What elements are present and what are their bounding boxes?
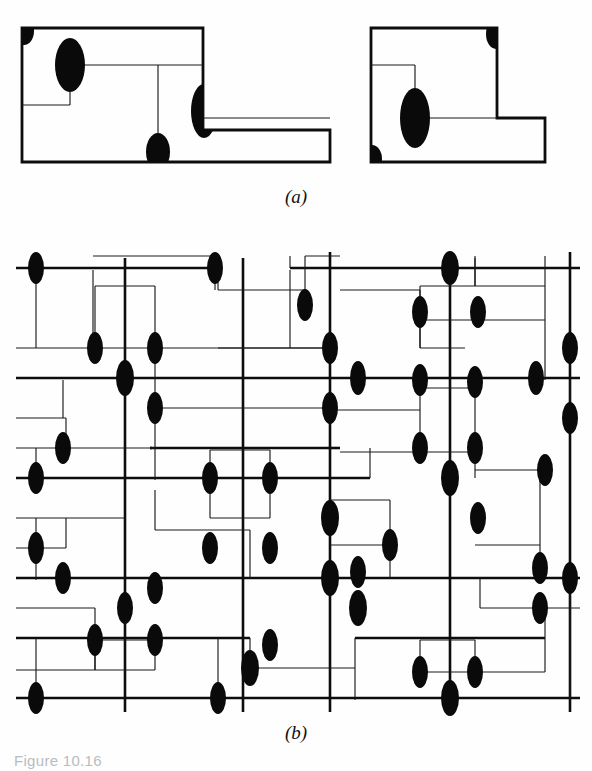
via-icon <box>28 682 44 714</box>
via-icon <box>87 624 103 656</box>
panel-a-svg <box>0 0 592 185</box>
panel-a <box>0 0 592 185</box>
via-left-bottom-icon <box>146 133 170 171</box>
via-icon <box>116 360 134 396</box>
panel-b-thin-horizontals <box>16 256 580 672</box>
via-icon <box>532 592 548 624</box>
via-left-upper-icon <box>55 38 85 92</box>
via-icon <box>117 592 133 624</box>
via-icon <box>467 432 483 464</box>
via-icon <box>412 364 428 396</box>
via-icon <box>441 251 459 285</box>
via-icon <box>470 296 486 328</box>
via-left-topleft-corner-icon <box>14 17 34 45</box>
panel-a-left-figure <box>14 17 330 171</box>
via-icon <box>321 560 339 596</box>
via-icon <box>412 656 428 688</box>
via-icon <box>562 332 578 364</box>
via-icon <box>147 572 163 604</box>
via-icon <box>412 296 428 328</box>
via-icon <box>467 366 483 398</box>
via-icon <box>262 532 278 564</box>
via-icon <box>297 289 313 321</box>
via-icon <box>321 500 339 536</box>
figure-root: (a) <box>0 0 592 771</box>
via-icon <box>322 332 338 364</box>
panel-b-svg <box>0 225 592 720</box>
via-icon <box>262 629 278 661</box>
via-icon <box>532 552 548 584</box>
via-icon <box>147 624 163 656</box>
via-icon <box>350 556 366 588</box>
via-icon <box>470 502 486 534</box>
panel-b-vias <box>28 251 578 716</box>
via-icon <box>210 682 226 714</box>
via-icon <box>28 252 44 284</box>
via-right-topright-corner-icon <box>486 19 506 49</box>
via-icon <box>262 462 278 494</box>
via-right-bottomleft-corner-icon <box>362 145 382 173</box>
panel-b-thick-verticals <box>125 252 570 712</box>
via-icon <box>537 454 553 486</box>
via-icon <box>147 332 163 364</box>
via-icon <box>350 361 366 395</box>
via-icon <box>382 529 398 561</box>
via-icon <box>147 392 163 424</box>
via-icon <box>241 650 259 686</box>
via-icon <box>202 532 218 564</box>
via-right-center-icon <box>400 88 430 148</box>
via-icon <box>87 332 103 364</box>
via-icon <box>55 562 71 594</box>
panel-a-right-figure <box>362 19 545 173</box>
via-icon <box>441 680 459 716</box>
via-icon <box>207 252 223 284</box>
figure-caption: Figure 10.16 <box>14 752 102 771</box>
via-icon <box>55 432 71 464</box>
via-icon <box>562 402 578 434</box>
via-icon <box>412 432 428 464</box>
right-outline <box>371 28 545 162</box>
panel-b <box>0 225 592 720</box>
via-icon <box>202 462 218 494</box>
panel-a-label: (a) <box>0 186 592 208</box>
via-icon <box>467 656 483 688</box>
via-icon <box>349 590 367 626</box>
via-icon <box>28 532 44 564</box>
via-icon <box>528 361 544 395</box>
via-icon <box>322 392 338 424</box>
via-icon <box>562 562 578 594</box>
panel-b-label: (b) <box>0 722 592 744</box>
via-icon <box>28 462 44 494</box>
via-icon <box>441 460 459 496</box>
